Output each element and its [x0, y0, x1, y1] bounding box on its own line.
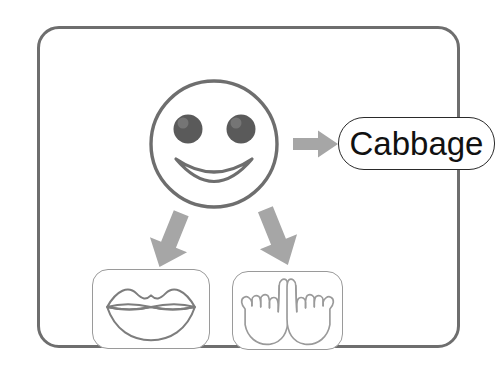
hands-icon-box[interactable]: [232, 271, 343, 350]
arrow-right-icon: [293, 131, 338, 158]
arrow-face-to-lips: [136, 211, 204, 271]
right-hand: [287, 279, 333, 344]
outer-frame: Cabbage: [37, 26, 460, 348]
smiley-face-icon[interactable]: [148, 77, 280, 215]
lips-icon-box[interactable]: [92, 269, 210, 349]
left-hand: [242, 279, 288, 344]
arrow-down-right-icon: [247, 202, 307, 273]
upper-lip: [107, 290, 195, 307]
arrow-down-left-icon: [141, 206, 200, 275]
cabbage-label[interactable]: Cabbage: [338, 117, 495, 170]
face-outline: [151, 81, 277, 207]
arrow-face-to-hands: [243, 207, 311, 269]
cabbage-label-text: Cabbage: [350, 127, 484, 160]
lips-icon: [93, 270, 209, 348]
left-eye-highlight: [178, 118, 189, 129]
hands-sign-icon: [233, 272, 342, 349]
left-eye: [174, 115, 203, 144]
arrow-face-to-label: [293, 129, 339, 159]
right-eye-highlight: [231, 118, 242, 129]
right-eye: [227, 115, 256, 144]
lower-lip: [107, 307, 195, 340]
